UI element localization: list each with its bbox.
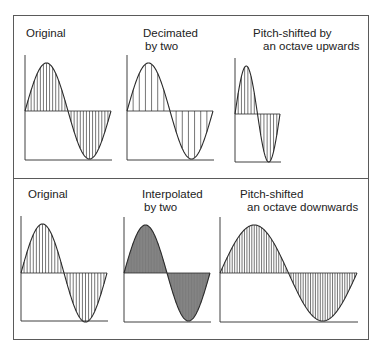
plot-pitch-down: [220, 217, 358, 322]
plot-interpolated: [124, 217, 211, 322]
plot-decimated: [127, 55, 214, 160]
plot-pitch-up: [235, 58, 281, 162]
plot-original: [25, 55, 112, 160]
plot-original-bottom: [21, 216, 108, 322]
waveform-plots: [0, 0, 380, 352]
